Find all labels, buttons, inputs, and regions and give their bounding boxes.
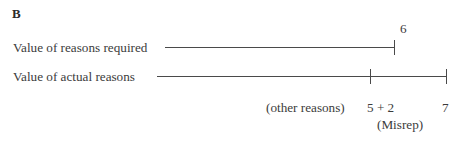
value-label-six: 6 [400,21,407,36]
tick-mark-actual-end [446,69,447,84]
value-line-reasons-required [165,47,395,48]
figure-panel-b: B Value of reasons required 6 Value of a… [0,0,462,143]
annotation-sum-expression: 5 + 2 [367,100,394,116]
annotation-total-seven: 7 [442,100,449,116]
value-line-actual-reasons [157,76,447,77]
row-label-actual-reasons: Value of actual reasons [13,69,135,85]
row-label-reasons-required: Value of reasons required [13,40,147,56]
annotation-misrep: (Misrep) [377,117,423,133]
panel-letter: B [12,7,21,21]
tick-mark-actual-mid [370,69,371,84]
annotation-other-reasons: (other reasons) [266,100,345,116]
tick-mark-required-end [394,40,395,55]
